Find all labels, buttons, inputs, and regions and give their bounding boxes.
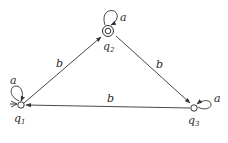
self-loop-q1: a <box>10 74 22 101</box>
edge-q1-q2-label: b <box>56 57 63 70</box>
state-q2: q2 <box>103 26 116 55</box>
edge-q2-q3: b <box>116 36 190 103</box>
start-arrow-q1 <box>10 101 17 107</box>
state-q1: q1 <box>14 102 26 126</box>
state-q1-label: q1 <box>14 112 26 126</box>
automaton-diagram: b b b a a a q1 q2 <box>0 0 228 143</box>
edge-q3-q1-label: b <box>107 92 114 105</box>
edge-q2-q3-label: b <box>156 58 163 71</box>
self-loop-q3: a <box>197 92 221 109</box>
edge-q1-q2: b <box>24 37 101 103</box>
self-loop-q2-label: a <box>120 11 127 24</box>
state-q3-label: q3 <box>188 114 200 128</box>
self-loop-q3-label: a <box>214 92 221 105</box>
self-loop-q2: a <box>104 11 127 25</box>
state-q2-label: q2 <box>103 40 115 54</box>
edge-q3-q1: b <box>26 92 190 108</box>
self-loop-q1-label: a <box>10 74 17 87</box>
